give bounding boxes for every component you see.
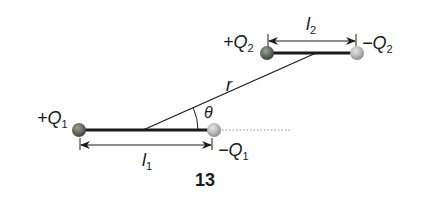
label-plus-q1: +Q1: [37, 108, 68, 130]
charge-plus-q2: [260, 46, 274, 60]
figure-number: 13: [195, 170, 215, 190]
charge-plus-q1: [72, 123, 86, 137]
angle-arc: [193, 108, 198, 130]
label-l2: l2: [306, 14, 316, 36]
label-minus-q1: −Q1: [218, 140, 249, 162]
charge-minus-q1: [207, 123, 221, 137]
label-theta: θ: [204, 104, 213, 121]
label-plus-q2: +Q2: [223, 32, 254, 54]
label-r: r: [226, 75, 233, 95]
label-minus-q2: −Q2: [362, 33, 393, 55]
dipole-diagram: +Q1 −Q1 l1 +Q2 −Q2 l2 r θ 13: [0, 0, 424, 199]
label-l1: l1: [142, 150, 152, 172]
